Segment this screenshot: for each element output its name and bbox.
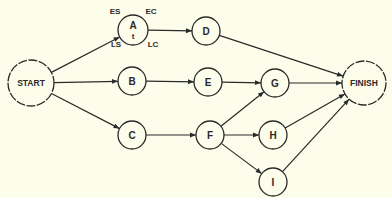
node-e: E <box>194 68 222 96</box>
ls-label: LS <box>111 40 122 49</box>
edge-start-b <box>54 81 118 82</box>
edge-e-g <box>222 82 261 83</box>
node-g: G <box>261 69 289 97</box>
node-a: At <box>118 15 148 45</box>
edge-f-i <box>221 143 262 173</box>
node-duration-label: t <box>132 32 135 41</box>
node-h: H <box>259 121 287 149</box>
node-c: C <box>118 121 146 149</box>
lc-label: LC <box>148 40 159 49</box>
node-label: C <box>128 130 135 141</box>
node-f: F <box>196 121 224 149</box>
es-label: ES <box>110 7 121 16</box>
node-label: G <box>271 78 279 89</box>
node-label: H <box>269 130 276 141</box>
ec-label: EC <box>145 7 156 16</box>
edge-start-a <box>51 37 119 72</box>
edges <box>51 30 349 173</box>
node-i: I <box>259 168 287 196</box>
node-label: A <box>129 20 136 31</box>
node-b: B <box>118 67 146 95</box>
node-finish: FINISH <box>342 61 386 105</box>
node-label: START <box>17 78 46 88</box>
edge-h-finish <box>285 94 345 128</box>
node-label: D <box>202 26 209 37</box>
node-label: F <box>207 130 213 141</box>
node-label: I <box>272 177 275 188</box>
edge-b-e <box>146 81 194 82</box>
pert-diagram: STARTAtBCDEFGHIFINISH ES EC LS LC <box>0 0 392 198</box>
node-start: START <box>8 60 54 106</box>
nodes: STARTAtBCDEFGHIFINISH <box>8 15 386 196</box>
edge-start-c <box>51 94 119 129</box>
node-label: E <box>205 77 212 88</box>
node-label: B <box>128 76 135 87</box>
node-d: D <box>192 17 220 45</box>
edge-a-d <box>148 30 192 31</box>
edge-f-g <box>221 92 264 127</box>
node-label: FINISH <box>350 78 378 88</box>
